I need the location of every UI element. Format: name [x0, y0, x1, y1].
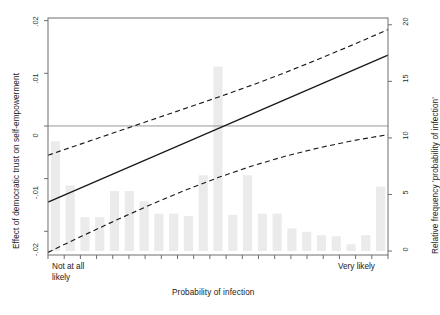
x-axis-ticks — [48, 255, 388, 259]
histogram-bar — [302, 232, 311, 251]
histogram-bar — [95, 217, 104, 251]
histogram-bar — [80, 217, 89, 251]
histogram-bar — [258, 214, 267, 251]
histogram-bar — [213, 67, 222, 251]
histogram-bar — [199, 175, 208, 251]
histogram-bar — [169, 214, 178, 251]
histogram-bar — [110, 191, 119, 251]
histogram-bars — [51, 67, 385, 251]
histogram-bar — [287, 228, 296, 251]
histogram-bar — [66, 185, 75, 251]
histogram-bar — [125, 191, 134, 251]
histogram-bar — [273, 214, 282, 251]
histogram-bar — [346, 244, 355, 251]
y-axis-right-ticks — [388, 25, 392, 251]
histogram-bar — [361, 235, 370, 251]
histogram-bar — [51, 141, 60, 251]
histogram-bar — [243, 175, 252, 251]
histogram-bar — [154, 214, 163, 251]
histogram-bar — [332, 236, 341, 251]
histogram-bar — [228, 215, 237, 251]
histogram-bar — [376, 187, 385, 251]
histogram-bar — [184, 216, 193, 251]
y-axis-left-ticks — [44, 21, 48, 232]
histogram-bar — [317, 235, 326, 251]
